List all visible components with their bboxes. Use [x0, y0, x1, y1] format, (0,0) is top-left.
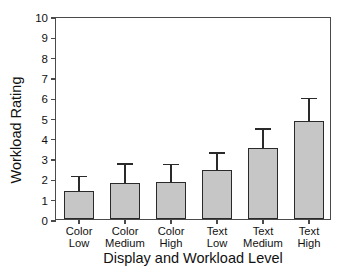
bar [110, 183, 140, 219]
error-bar-cap [71, 176, 87, 178]
y-axis-tick [51, 119, 56, 120]
bar-chart-figure: Workload Rating 012345678910ColorLowColo… [0, 0, 342, 274]
y-axis-tick-label: 2 [42, 174, 48, 186]
x-axis-tick [216, 219, 217, 224]
y-axis-tick-label: 6 [42, 93, 48, 105]
y-axis-tick-label: 1 [42, 195, 48, 207]
y-axis-tick [51, 58, 56, 59]
y-axis-tick-label: 8 [42, 53, 48, 65]
y-axis-title: Workload Rating [8, 15, 30, 245]
x-axis-tick-label-line: Text [274, 225, 342, 237]
y-axis-tick-label: 3 [42, 154, 48, 166]
error-bar-cap [301, 98, 317, 100]
bar [202, 170, 232, 219]
error-bar-stem [170, 165, 172, 182]
bar [248, 148, 278, 219]
x-axis-tick-label: TextHigh [274, 225, 342, 250]
y-axis-tick-label: 4 [42, 134, 48, 146]
y-axis-tick [51, 200, 56, 201]
plot-area: 012345678910ColorLowColorMediumColorHigh… [55, 17, 331, 220]
y-axis-tick-label: 7 [42, 73, 48, 85]
error-bar-stem [262, 130, 264, 149]
x-axis-tick-label-line: High [274, 237, 342, 249]
y-axis-tick [51, 38, 56, 39]
y-axis-tick [51, 99, 56, 100]
bar [156, 182, 186, 219]
x-axis-tick [170, 219, 171, 224]
y-axis-tick [51, 17, 56, 18]
y-axis-tick [51, 139, 56, 140]
x-axis-title: Display and Workload Level [55, 250, 331, 266]
bar [294, 121, 324, 219]
y-axis-tick-label: 10 [35, 12, 48, 24]
y-axis-tick [51, 180, 56, 181]
bars-layer [56, 18, 330, 219]
y-axis-tick [51, 220, 56, 221]
error-bar-cap [163, 164, 179, 166]
y-axis-tick-label: 5 [42, 114, 48, 126]
x-axis-tick [262, 219, 263, 224]
y-axis-tick [51, 78, 56, 79]
error-bar-stem [78, 177, 80, 191]
bar [64, 191, 94, 219]
y-axis-tick [51, 159, 56, 160]
error-bar-stem [216, 154, 218, 170]
error-bar-stem [124, 165, 126, 183]
error-bar-cap [209, 152, 225, 154]
x-axis-tick [78, 219, 79, 224]
error-bar-cap [117, 163, 133, 165]
x-axis-tick [308, 219, 309, 224]
error-bar-stem [308, 99, 310, 120]
x-axis-tick [124, 219, 125, 224]
error-bar-cap [255, 128, 271, 130]
y-axis-tick-label: 9 [42, 32, 48, 44]
